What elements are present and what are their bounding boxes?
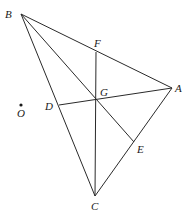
label-g: G bbox=[100, 86, 108, 98]
segment-ba bbox=[21, 14, 172, 88]
label-f: F bbox=[93, 37, 101, 49]
label-e: E bbox=[136, 143, 144, 155]
segment-fc bbox=[95, 52, 96, 196]
label-a: A bbox=[174, 82, 182, 94]
segment-da bbox=[59, 88, 172, 105]
label-d: D bbox=[44, 100, 53, 112]
segment-bc bbox=[21, 14, 95, 196]
label-b: B bbox=[5, 8, 12, 20]
label-c: C bbox=[91, 200, 99, 212]
label-o: O bbox=[17, 107, 25, 119]
geometry-diagram: B A C D E F G O bbox=[0, 0, 190, 218]
segment-be bbox=[21, 14, 134, 142]
